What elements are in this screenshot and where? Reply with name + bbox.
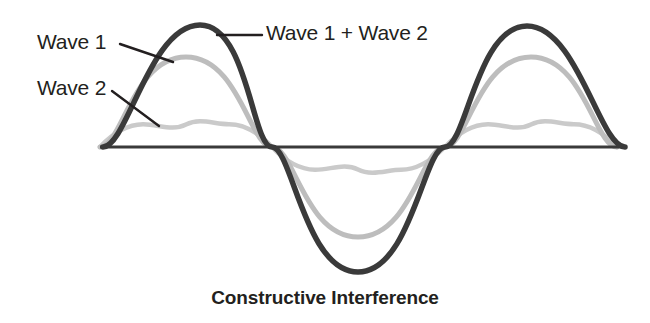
figure-caption: Constructive Interference — [0, 287, 650, 309]
sum-label: Wave 1 + Wave 2 — [266, 22, 428, 43]
wave2-label: Wave 2 — [37, 77, 106, 98]
interference-figure: Wave 1 Wave 2 Wave 1 + Wave 2 Constructi… — [0, 0, 650, 323]
wave1-label: Wave 1 — [37, 31, 106, 52]
